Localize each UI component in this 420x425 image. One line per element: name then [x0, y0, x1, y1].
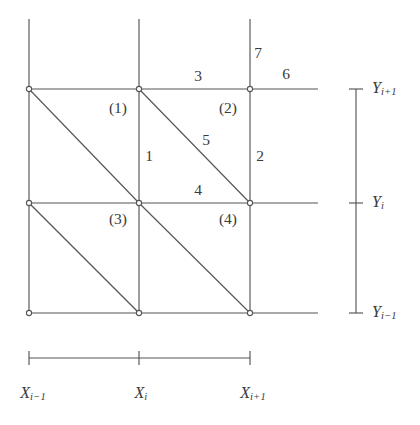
cell-label-cell-4: (4)	[219, 211, 237, 227]
cell-label-cell-2: (2)	[219, 100, 237, 116]
edge-label-edge-1: 1	[145, 148, 153, 164]
axis-rulers	[29, 89, 363, 365]
node-n-bottom-right	[247, 310, 252, 315]
x-axis-subscript: i	[144, 391, 147, 402]
x-axis-variable: X	[135, 384, 145, 401]
node-n-top-mid	[136, 86, 141, 91]
edge-label-edge-5: 5	[202, 132, 210, 148]
edge-label-edge-2: 2	[256, 148, 264, 164]
y-axis-variable: Y	[372, 303, 381, 320]
node-n-mid-right	[247, 200, 252, 205]
x-axis-variable: X	[20, 384, 30, 401]
node-n-bottom-mid	[136, 310, 141, 315]
y-axis-label-y-tick-top: Yi+1	[372, 80, 397, 98]
mesh-figure: (1)(2)(3)(4) 1234567 Yi+1YiYi−1 Xi−1XiXi…	[0, 0, 420, 425]
y-axis-label-y-tick-middle: Yi	[372, 194, 384, 212]
x-axis-label-x-tick-left: Xi−1	[20, 385, 46, 403]
node-n-mid-left	[26, 200, 31, 205]
x-axis-subscript: i−1	[30, 391, 46, 402]
node-n-top-left	[26, 86, 31, 91]
node-n-bottom-left	[26, 310, 31, 315]
grid-lines	[29, 19, 318, 313]
cell-label-cell-1: (1)	[109, 100, 127, 116]
y-axis-subscript: i+1	[381, 86, 397, 97]
cell-label-cell-3: (3)	[109, 211, 127, 227]
y-axis-variable: Y	[372, 193, 381, 210]
x-axis-label-x-tick-middle: Xi	[135, 385, 148, 403]
x-axis-label-x-tick-right: Xi+1	[240, 385, 266, 403]
mesh-canvas	[0, 0, 420, 425]
edge-label-edge-6: 6	[282, 66, 290, 82]
y-axis-label-y-tick-bottom: Yi−1	[372, 304, 397, 322]
y-axis-variable: Y	[372, 79, 381, 96]
x-axis-variable: X	[240, 384, 250, 401]
edge-label-edge-3: 3	[194, 68, 202, 84]
y-axis-subscript: i	[381, 200, 384, 211]
x-axis-subscript: i+1	[250, 391, 266, 402]
edge-label-edge-7: 7	[254, 45, 262, 61]
node-n-center	[136, 200, 141, 205]
y-axis-subscript: i−1	[381, 310, 397, 321]
node-n-top-right	[247, 86, 252, 91]
edge-label-edge-4: 4	[194, 182, 202, 198]
